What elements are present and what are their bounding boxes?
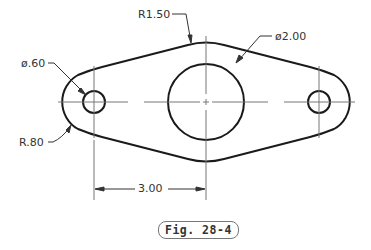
diameter-label-d200: ø2.00 xyxy=(275,31,306,42)
figure-caption: Fig. 28-4 xyxy=(158,221,239,239)
radius-label-r080: R.80 xyxy=(19,137,44,148)
dimension-label-300: 3.00 xyxy=(138,183,163,194)
radius-label-r150: R1.50 xyxy=(138,9,170,20)
diameter-label-d060: ø.60 xyxy=(21,58,45,69)
technical-drawing xyxy=(0,0,371,250)
centerlines xyxy=(58,36,355,200)
